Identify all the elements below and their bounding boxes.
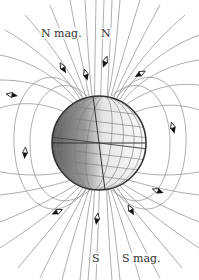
compass-needle-icon [6,91,19,98]
label-geographic-north: N [100,28,112,39]
label-magnetic-north: N mag. [40,28,83,39]
magnetic-field-diagram [0,0,199,280]
label-magnetic-south: S mag. [121,253,162,264]
label-geographic-south: S [91,253,101,264]
compass-needle-icon [169,122,177,135]
compass-needle-icon [93,213,100,226]
earth-globe [35,89,166,197]
compass-needle-icon [22,147,28,159]
